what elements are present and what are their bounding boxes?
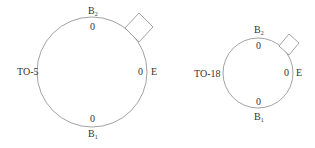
to5-b2-value: 0 [90, 22, 95, 32]
to18-b2-letter: B [254, 24, 261, 35]
to18-b1-letter: B [254, 111, 261, 122]
to5-b1-subscript: 1 [95, 134, 98, 140]
to5-package-label: TO-5 [17, 67, 38, 77]
diagram-canvas [0, 0, 315, 148]
to5-b2-pin-label: B2 [88, 6, 98, 17]
to18-b1-pin-label: B1 [254, 112, 264, 123]
to5-b1-pin-label: B1 [88, 129, 98, 140]
to5-b1-value: 0 [90, 114, 95, 124]
to18-b1-subscript: 1 [261, 117, 264, 123]
to18-e-pin-label: E [296, 68, 302, 78]
to18-tab-icon [279, 34, 299, 55]
to18-b2-value: 0 [256, 41, 261, 51]
to18-package-label: TO-18 [194, 69, 220, 79]
to18-e-value: 0 [284, 68, 289, 78]
to5-e-value: 0 [138, 67, 143, 77]
to5-tab-icon [125, 13, 153, 42]
to18-b1-value: 0 [256, 97, 261, 107]
to18-b2-pin-label: B2 [254, 25, 264, 36]
to5-b1-letter: B [88, 128, 95, 139]
to5-b2-letter: B [88, 5, 95, 16]
to5-b2-subscript: 2 [95, 11, 98, 17]
to18-b2-subscript: 2 [261, 30, 264, 36]
to5-e-pin-label: E [151, 67, 157, 77]
